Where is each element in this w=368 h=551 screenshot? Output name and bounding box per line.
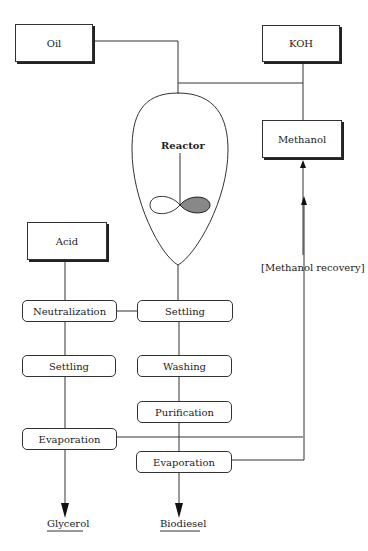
step-label: Evaporation	[153, 457, 215, 468]
step-label: Settling	[49, 361, 89, 372]
purification-step: Purification	[137, 401, 232, 423]
glycerol-evaporation-step: Evaporation	[22, 428, 117, 450]
acid-label: Acid	[56, 236, 78, 247]
acid-box: Acid	[27, 222, 107, 260]
methanol-recovery-label: [Methanol recovery]	[261, 262, 365, 273]
step-label: Settling	[165, 306, 205, 317]
step-label: Purification	[155, 407, 214, 418]
biodiesel-product-label: Biodiesel	[160, 518, 206, 529]
washing-step: Washing	[137, 355, 232, 377]
methanol-box: Methanol	[262, 120, 342, 158]
biodiesel-evaporation-step: Evaporation	[136, 451, 232, 473]
step-label: Washing	[163, 361, 206, 372]
glycerol-product-label: Glycerol	[47, 518, 89, 529]
koh-label: KOH	[289, 38, 313, 49]
neutralization-step: Neutralization	[22, 300, 117, 322]
glycerol-settling-step: Settling	[22, 355, 116, 377]
step-label: Neutralization	[33, 306, 106, 317]
oil-label: Oil	[47, 38, 62, 49]
step-label: Evaporation	[39, 434, 101, 445]
reactor-label: Reactor	[161, 140, 205, 151]
methanol-label: Methanol	[278, 134, 326, 145]
biodiesel-settling-step: Settling	[137, 300, 233, 322]
oil-box: Oil	[15, 24, 93, 62]
koh-box: KOH	[262, 25, 340, 62]
